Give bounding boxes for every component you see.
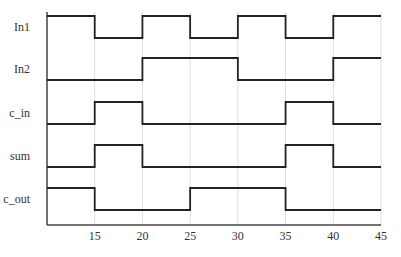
waveform-c-in	[47, 102, 381, 124]
waveform-in1	[47, 16, 381, 38]
x-tick-label: 45	[375, 229, 387, 243]
signal-labels: In1In2c_insumc_out	[3, 20, 30, 206]
x-tick-label: 15	[89, 229, 101, 243]
x-tick-label: 40	[327, 229, 339, 243]
signal-waveforms	[47, 16, 381, 210]
waveform-c-out	[47, 188, 381, 210]
signal-label-in2: In2	[14, 62, 30, 76]
waveform-in2	[47, 58, 381, 80]
signal-label-c-out: c_out	[3, 192, 30, 206]
timing-diagram: 15202530354045 In1In2c_insumc_out	[0, 0, 401, 257]
signal-label-in1: In1	[14, 20, 30, 34]
x-tick-label: 30	[232, 229, 244, 243]
x-axis	[47, 12, 381, 225]
x-tick-label: 35	[280, 229, 292, 243]
x-tick-label: 20	[136, 229, 148, 243]
x-tick-label: 25	[184, 229, 196, 243]
grid-lines	[95, 12, 381, 225]
signal-label-sum: sum	[10, 149, 31, 163]
x-axis-tick-labels: 15202530354045	[89, 229, 387, 243]
waveform-sum	[47, 145, 381, 167]
signal-label-c-in: c_in	[9, 106, 30, 120]
